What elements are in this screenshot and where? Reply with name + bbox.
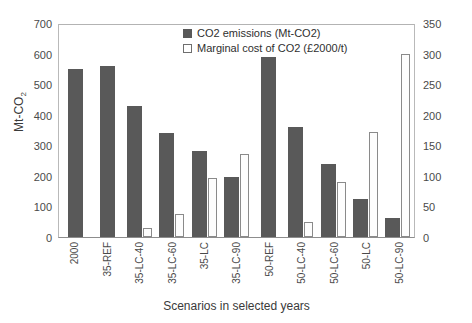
x-axis-tick-35-LC-90: 35-LC-90 xyxy=(220,240,252,292)
bar-co2-emissions xyxy=(288,127,303,237)
x-axis-tick-label: 35-LC-90 xyxy=(231,242,242,284)
bar-marginal-cost xyxy=(401,54,410,237)
x-axis-tick-35-LC: 35-LC xyxy=(188,240,220,292)
bar-group xyxy=(59,24,91,237)
bar-marginal-cost xyxy=(337,182,346,237)
bar-co2-emissions xyxy=(385,218,400,237)
x-axis-tick-35-LC-60: 35-LC-60 xyxy=(155,240,187,292)
legend-label: CO2 emissions (Mt-CO2) xyxy=(197,26,320,41)
bar-marginal-cost xyxy=(304,222,313,237)
y-axis-left-title-subscript: 2 xyxy=(19,92,28,96)
legend-label: Marginal cost of CO2 (£2000/t) xyxy=(197,41,347,56)
y-axis-left-tick-300: 300 xyxy=(20,141,52,152)
bar-marginal-cost xyxy=(143,228,152,237)
x-axis-tick-2000: 2000 xyxy=(58,240,90,292)
legend-swatch-light-icon xyxy=(183,44,192,53)
plot-area xyxy=(58,24,415,238)
x-axis-tick-label: 50-LC-40 xyxy=(296,242,307,284)
bar-marginal-cost xyxy=(175,214,184,237)
y-axis-right-tick-50: 50 xyxy=(423,202,457,213)
x-axis-tick-labels: 200035-REF35-LC-4035-LC-6035-LC35-LC-905… xyxy=(58,240,415,292)
x-axis-tick-50-LC-60: 50-LC-60 xyxy=(318,240,350,292)
x-axis-tick-label: 50-LC xyxy=(361,242,372,269)
bar-co2-emissions xyxy=(224,177,239,237)
y-axis-right-tick-0: 0 xyxy=(423,233,457,244)
bar-co2-emissions xyxy=(321,164,336,237)
bar-group xyxy=(91,24,123,237)
bar-co2-emissions xyxy=(100,66,115,237)
x-axis-tick-label: 50-REF xyxy=(263,242,274,276)
y-axis-left-tick-500: 500 xyxy=(20,80,52,91)
legend-item: Marginal cost of CO2 (£2000/t) xyxy=(183,41,347,56)
x-axis-title: Scenarios in selected years xyxy=(58,299,415,313)
y-axis-left-tick-100: 100 xyxy=(20,202,52,213)
x-axis-tick-label: 35-LC xyxy=(199,242,210,269)
bar-group xyxy=(124,24,156,237)
bar-marginal-cost xyxy=(240,154,249,237)
x-axis-tick-label: 2000 xyxy=(69,242,80,264)
legend-swatch-dark-icon xyxy=(183,29,192,38)
y-axis-left-tick-600: 600 xyxy=(20,50,52,61)
x-axis-tick-50-LC-90: 50-LC-90 xyxy=(383,240,415,292)
x-axis-tick-label: 35-REF xyxy=(101,242,112,276)
legend-item: CO2 emissions (Mt-CO2) xyxy=(183,26,347,41)
bar-marginal-cost xyxy=(369,132,378,237)
x-axis-tick-label: 50-LC-60 xyxy=(328,242,339,284)
bar-co2-emissions xyxy=(68,69,83,237)
x-axis-tick-label: 35-LC-60 xyxy=(166,242,177,284)
y-axis-right-tick-250: 250 xyxy=(423,80,457,91)
x-axis-tick-label: 50-LC-90 xyxy=(393,242,404,284)
x-axis-tick-50-LC: 50-LC xyxy=(350,240,382,292)
bar-co2-emissions xyxy=(261,57,276,237)
y-axis-left-tick-200: 200 xyxy=(20,172,52,183)
bar-group xyxy=(349,24,381,237)
y-axis-right-tick-350: 350 xyxy=(423,19,457,30)
x-axis-tick-35-LC-40: 35-LC-40 xyxy=(123,240,155,292)
x-axis-tick-label: 35-LC-40 xyxy=(134,242,145,284)
bar-co2-emissions xyxy=(192,151,207,237)
bar-co2-emissions xyxy=(159,133,174,237)
chart-legend: CO2 emissions (Mt-CO2)Marginal cost of C… xyxy=(183,26,347,56)
bar-marginal-cost xyxy=(208,178,217,237)
y-axis-right-tick-150: 150 xyxy=(423,141,457,152)
y-axis-right-tick-200: 200 xyxy=(423,111,457,122)
bar-group xyxy=(382,24,414,237)
y-axis-left-tick-400: 400 xyxy=(20,111,52,122)
bar-co2-emissions xyxy=(127,106,142,237)
y-axis-left-tick-700: 700 xyxy=(20,19,52,30)
x-axis-tick-50-REF: 50-REF xyxy=(253,240,285,292)
y-axis-right-tick-100: 100 xyxy=(423,172,457,183)
y-axis-left-tick-0: 0 xyxy=(20,233,52,244)
bar-co2-emissions xyxy=(353,199,368,237)
co2-scenarios-bar-chart: Mt-CO2 0100200300400500600700 0501001502… xyxy=(0,0,472,323)
y-axis-right-tick-300: 300 xyxy=(423,50,457,61)
x-axis-tick-50-LC-40: 50-LC-40 xyxy=(285,240,317,292)
x-axis-tick-35-REF: 35-REF xyxy=(90,240,122,292)
